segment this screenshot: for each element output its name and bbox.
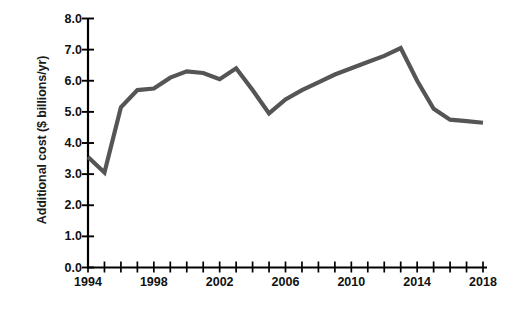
data-line-additional-cost bbox=[88, 48, 483, 173]
plot-area bbox=[0, 0, 526, 326]
chart-figure: Additional cost ($ billions/yr) 0.01.02.… bbox=[0, 0, 526, 326]
axes bbox=[82, 19, 487, 273]
